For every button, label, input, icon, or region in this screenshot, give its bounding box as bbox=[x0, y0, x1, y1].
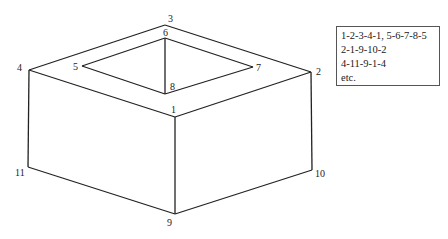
vertex-label-7: 7 bbox=[256, 62, 261, 73]
vertex-label-8: 8 bbox=[170, 81, 175, 92]
edge-4-11 bbox=[28, 70, 29, 167]
vertex-label-5: 5 bbox=[73, 61, 78, 72]
edge-2-3 bbox=[165, 25, 311, 72]
edge-4-1 bbox=[29, 70, 175, 117]
legend-line-2: 2-1-9-10-2 bbox=[341, 43, 435, 57]
edge-7-8 bbox=[165, 67, 253, 94]
vertex-label-1: 1 bbox=[171, 104, 176, 115]
edge-5-6 bbox=[82, 38, 165, 66]
edge-6-7 bbox=[165, 38, 253, 67]
edge-2-10 bbox=[311, 72, 312, 170]
vertex-label-6: 6 bbox=[163, 27, 168, 38]
vertex-label-11: 11 bbox=[15, 167, 25, 178]
face-list-legend: 1-2-3-4-1, 5-6-7-8-5 2-1-9-10-2 4-11-9-1… bbox=[336, 26, 440, 86]
vertex-label-10: 10 bbox=[315, 168, 325, 179]
vertex-label-9: 9 bbox=[167, 217, 172, 228]
edge-8-5 bbox=[82, 66, 165, 94]
edge-1-2 bbox=[175, 72, 311, 117]
legend-line-3: 4-11-9-1-4 bbox=[341, 57, 435, 71]
vertex-label-3: 3 bbox=[168, 13, 173, 24]
legend-line-4: etc. bbox=[341, 71, 435, 85]
edge-11-9 bbox=[28, 167, 175, 214]
legend-line-1: 1-2-3-4-1, 5-6-7-8-5 bbox=[341, 29, 435, 43]
vertex-label-2: 2 bbox=[316, 66, 321, 77]
edge-10-9 bbox=[175, 170, 312, 214]
edge-3-4 bbox=[29, 25, 165, 70]
vertex-label-4: 4 bbox=[17, 62, 22, 73]
